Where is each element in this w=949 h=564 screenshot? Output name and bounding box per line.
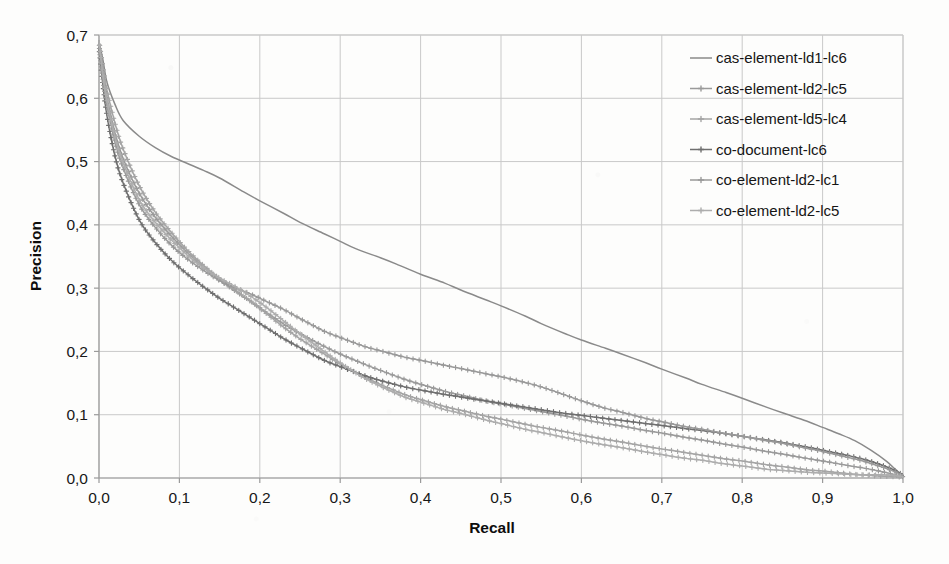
y-tick-label: 0,6 <box>66 90 88 107</box>
y-tick-label: 0,4 <box>66 216 88 233</box>
x-tick-label: 0,7 <box>651 489 673 506</box>
y-tick-label: 0,7 <box>66 27 88 44</box>
y-axis-title: Precision <box>27 221 44 291</box>
legend-label: co-element-ld2-lc1 <box>716 171 839 188</box>
precision-recall-chart: 0,00,10,20,30,40,50,60,70,80,91,0 0,00,1… <box>0 0 949 564</box>
x-tick-label: 0,4 <box>410 489 432 506</box>
legend-label: co-element-ld2-lc5 <box>716 202 839 219</box>
y-tick-label: 0,5 <box>66 153 88 170</box>
x-tick-label: 0,3 <box>329 489 351 506</box>
x-tick-label: 0,5 <box>490 489 512 506</box>
x-tick-label: 0,0 <box>88 489 110 506</box>
x-tick-label: 0,2 <box>249 489 271 506</box>
legend-label: cas-element-ld2-lc5 <box>716 80 847 97</box>
x-tick-label: 0,6 <box>571 489 593 506</box>
y-tick-label: 0,3 <box>66 280 88 297</box>
y-tick-label: 0,0 <box>66 470 88 487</box>
chart-canvas: 0,00,10,20,30,40,50,60,70,80,91,0 0,00,1… <box>0 0 949 564</box>
legend-label: cas-element-ld1-lc6 <box>716 49 847 66</box>
y-tick-label: 0,1 <box>66 406 88 423</box>
x-tick-label: 0,9 <box>812 489 834 506</box>
x-axis-title: Recall <box>469 519 515 536</box>
x-tick-label: 0,8 <box>731 489 753 506</box>
x-tick-label: 1,0 <box>892 489 914 506</box>
x-tick-label: 0,1 <box>169 489 191 506</box>
legend-label: co-document-lc6 <box>716 141 827 158</box>
legend-label: cas-element-ld5-lc4 <box>716 110 847 127</box>
y-tick-label: 0,2 <box>66 343 88 360</box>
